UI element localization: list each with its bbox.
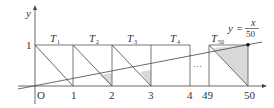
triangle-label-4: T 4: [170, 32, 180, 45]
svg-text:y =: y =: [227, 22, 243, 34]
ellipsis: ···: [193, 61, 202, 71]
triangle-label-2: T 2: [89, 32, 99, 45]
x-axis-arrow-icon: [262, 84, 267, 88]
diagram: y 1 O 1 2 3 4 49 50 T 1 T 2 T 3 T 4 T 50…: [0, 0, 274, 108]
svg-text:2: 2: [96, 39, 99, 45]
y-axis-label: y: [25, 7, 31, 19]
svg-text:T: T: [89, 32, 96, 44]
svg-text:50: 50: [218, 39, 224, 45]
svg-text:T: T: [127, 32, 134, 44]
svg-text:x: x: [250, 17, 256, 28]
x-tick-50: 50: [244, 89, 256, 101]
triangle-label-50: T 50: [211, 32, 224, 45]
x-tick-3: 3: [148, 89, 154, 101]
x-tick-2: 2: [109, 89, 115, 101]
svg-text:3: 3: [134, 39, 137, 45]
x-tick-49: 49: [202, 89, 214, 101]
shaded-regions: [100, 45, 248, 86]
y-tick-1: 1: [26, 39, 32, 51]
line-equation-label: y = x 50: [227, 17, 259, 39]
x-tick-1: 1: [71, 89, 77, 101]
x-tick-4: 4: [187, 89, 193, 101]
y-axis-arrow-icon: [33, 5, 37, 10]
svg-text:1: 1: [57, 39, 60, 45]
svg-text:50: 50: [246, 29, 256, 39]
origin-label: O: [37, 89, 45, 101]
svg-text:T: T: [211, 32, 218, 44]
triangle-label-3: T 3: [127, 32, 137, 45]
svg-text:4: 4: [177, 39, 180, 45]
svg-text:T: T: [170, 32, 177, 44]
intersection-point: [246, 43, 250, 47]
triangle-label-1: T 1: [50, 32, 60, 45]
svg-text:T: T: [50, 32, 57, 44]
shaded-region-3: [140, 70, 151, 86]
